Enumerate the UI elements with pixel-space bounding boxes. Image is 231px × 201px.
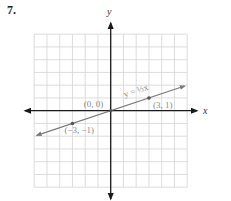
point-label: (3, 1) <box>153 100 173 110</box>
x-axis-label: x <box>202 105 208 116</box>
point-label: (−3, −1) <box>64 125 94 135</box>
y-axis-label: y <box>106 6 112 17</box>
plot-points: (−3, −1)(0, 0)(3, 1) <box>64 96 172 135</box>
point-marker <box>109 109 113 113</box>
coordinate-graph: (−3, −1)(0, 0)(3, 1) x y y = ⅓x <box>0 0 231 201</box>
point-marker <box>147 96 151 100</box>
point-label: (0, 0) <box>84 99 104 109</box>
